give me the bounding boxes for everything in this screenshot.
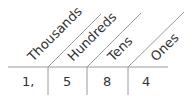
header-ones: Ones <box>148 30 182 64</box>
place-value-chart: Thousands Hundreds Tens Ones 1, 5 8 4 <box>0 0 192 102</box>
value-tens: 8 <box>103 74 111 89</box>
header-tens: Tens <box>104 33 136 65</box>
value-ones: 4 <box>142 74 150 89</box>
value-thousands: 1, <box>22 74 34 89</box>
value-hundreds: 5 <box>63 74 71 89</box>
